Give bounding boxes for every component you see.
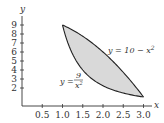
chart-svg: 0.51.01.52.02.53.0 23456789 y x y = 10 −… — [0, 0, 164, 123]
svg-text:3.0: 3.0 — [136, 110, 151, 120]
svg-text:2.5: 2.5 — [116, 110, 131, 120]
upper-curve-label: y = 10 − x2 — [107, 44, 155, 55]
chart-figure: 0.51.01.52.02.53.0 23456789 y x y = 10 −… — [0, 0, 164, 123]
svg-text:1.0: 1.0 — [55, 110, 70, 120]
svg-text:x2: x2 — [75, 80, 83, 90]
svg-text:3: 3 — [11, 74, 17, 84]
svg-text:9: 9 — [11, 20, 17, 30]
svg-text:1.5: 1.5 — [76, 110, 91, 120]
svg-text:9: 9 — [76, 71, 81, 80]
svg-text:6: 6 — [11, 47, 17, 57]
svg-text:5: 5 — [11, 56, 17, 66]
svg-text:y = 10 − x2: y = 10 − x2 — [107, 44, 155, 55]
svg-text:8: 8 — [11, 29, 17, 39]
x-axis-label: x — [154, 100, 159, 110]
svg-text:2: 2 — [11, 83, 17, 93]
svg-text:0.5: 0.5 — [35, 110, 50, 120]
y-axis-label: y — [19, 4, 26, 14]
svg-text:7: 7 — [11, 38, 17, 48]
svg-text:2.0: 2.0 — [96, 110, 111, 120]
svg-text:y =: y = — [59, 77, 74, 86]
lower-curve-label: y = 9 x2 — [59, 71, 83, 90]
svg-text:4: 4 — [11, 65, 17, 75]
